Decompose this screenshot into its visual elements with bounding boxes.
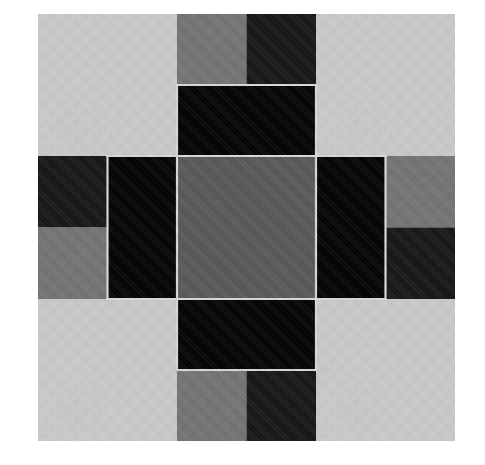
center-square (177, 156, 316, 299)
corner-square-south (177, 299, 316, 370)
corner-square-north (177, 85, 316, 156)
quilt-block (38, 14, 455, 441)
background-top-right-corner (316, 14, 455, 156)
quilt-block-artwork (38, 14, 455, 441)
background-bottom-right-corner (316, 299, 455, 441)
image-canvas (0, 0, 485, 465)
corner-square-west (108, 156, 178, 299)
corner-square-east (316, 156, 386, 299)
background-bottom-left-corner (38, 299, 177, 441)
background-top-left-corner (38, 14, 177, 156)
